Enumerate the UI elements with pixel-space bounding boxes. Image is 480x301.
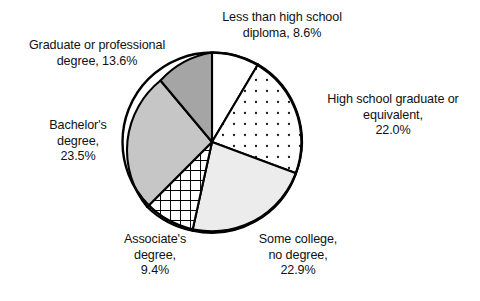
pie-label-high-school-graduate: High school graduate or equivalent, 22.0… bbox=[310, 92, 476, 139]
pie-chart-figure: Less than high school diploma, 8.6% Grad… bbox=[0, 0, 480, 301]
pie-label-less-than-high-school: Less than high school diploma, 8.6% bbox=[196, 10, 368, 41]
pie-label-graduate-professional: Graduate or professional degree, 13.6% bbox=[2, 38, 192, 69]
pie-label-some-college: Some college, no degree, 22.9% bbox=[236, 232, 360, 279]
pie-label-bachelors-degree: Bachelor's degree, 23.5% bbox=[22, 118, 134, 165]
pie-label-associates-degree: Associate's degree, 9.4% bbox=[96, 232, 214, 279]
